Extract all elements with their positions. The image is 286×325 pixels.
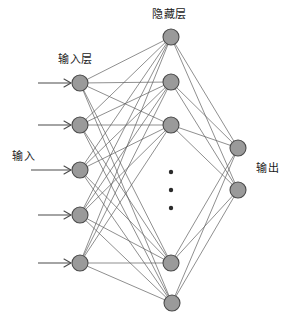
edge-i4-h1 <box>84 44 168 208</box>
node-h5[interactable] <box>164 295 180 311</box>
node-o2[interactable] <box>230 182 246 198</box>
edge-h4-o1 <box>175 155 234 256</box>
node-h3[interactable] <box>163 117 179 133</box>
network-canvas <box>0 0 286 325</box>
edge-h1-o2 <box>174 44 235 182</box>
ellipsis-dot-3 <box>169 206 173 210</box>
node-h1[interactable] <box>163 29 179 45</box>
edge-h3-o1 <box>179 128 231 146</box>
ellipsis-dot-1 <box>169 170 173 174</box>
node-h4[interactable] <box>163 255 179 271</box>
hidden-layer-ellipsis <box>169 170 173 210</box>
edge-i4-h3 <box>86 131 166 210</box>
input-layer-label: 输入层 <box>58 53 93 66</box>
edge-h5-o2 <box>176 197 234 296</box>
edge-i3-h4 <box>86 176 166 258</box>
edge-h1-o1 <box>175 44 234 141</box>
node-h2[interactable] <box>163 74 179 90</box>
hidden-layer-label: 隐藏层 <box>152 8 187 21</box>
edge-i4-h5 <box>86 221 166 298</box>
edges-input-to-hidden <box>83 41 169 300</box>
node-o1[interactable] <box>230 140 246 156</box>
node-i4[interactable] <box>72 207 88 223</box>
neural-network-diagram: 隐藏层 输入层 输入 输出 <box>0 0 286 325</box>
edge-i5-h5 <box>87 266 164 300</box>
input-arrows <box>31 79 71 267</box>
ellipsis-dot-2 <box>169 188 173 192</box>
output-label: 输出 <box>256 162 279 175</box>
edge-i2-h5 <box>84 132 169 296</box>
input-label: 输入 <box>12 150 35 163</box>
edge-i5-h1 <box>83 44 168 255</box>
edges-hidden-to-output <box>174 44 235 296</box>
network-nodes <box>72 29 246 311</box>
node-i2[interactable] <box>72 117 88 133</box>
node-i5[interactable] <box>72 255 88 271</box>
edge-h2-o1 <box>177 88 233 143</box>
node-i3[interactable] <box>72 162 88 178</box>
edge-i3-h1 <box>85 44 167 164</box>
node-i1[interactable] <box>72 75 88 91</box>
edge-i4-h2 <box>85 89 167 209</box>
edge-h5-o1 <box>175 155 235 295</box>
edge-i3-h3 <box>87 129 164 167</box>
edge-h2-o2 <box>175 89 234 183</box>
edge-i4-h4 <box>87 219 164 260</box>
edge-i1-h2 <box>88 82 163 83</box>
